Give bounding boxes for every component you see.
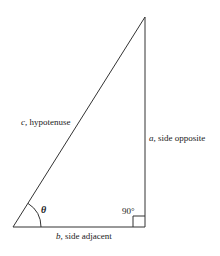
angle-theta-label: θ: [41, 205, 46, 215]
side-opposite-label: a, side opposite: [149, 133, 205, 143]
right-angle-marker: [133, 216, 145, 227]
hypotenuse-text: hypotenuse: [30, 117, 71, 127]
adjacent-text: side adjacent: [65, 231, 112, 241]
side-adjacent-label: b, side adjacent: [56, 231, 112, 241]
right-angle-label: 90°: [122, 206, 135, 216]
opposite-text: side opposite: [158, 133, 205, 143]
angle-arc: [28, 203, 41, 227]
triangle-figure: [0, 0, 220, 256]
hypotenuse-label: c, hypotenuse: [21, 117, 71, 127]
